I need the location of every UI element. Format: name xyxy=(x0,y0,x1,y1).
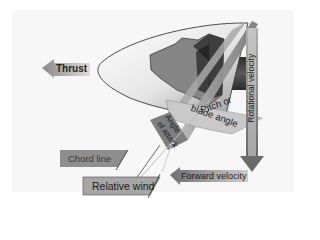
forward-velocity-label: Forward velocity xyxy=(181,172,247,181)
chord-line-label: Chord line xyxy=(68,154,111,164)
thrust-label: Thrust xyxy=(56,64,87,74)
relative-wind-label: Relative wind xyxy=(92,181,154,192)
rotational-velocity-label: Rotational velocity xyxy=(247,43,256,133)
